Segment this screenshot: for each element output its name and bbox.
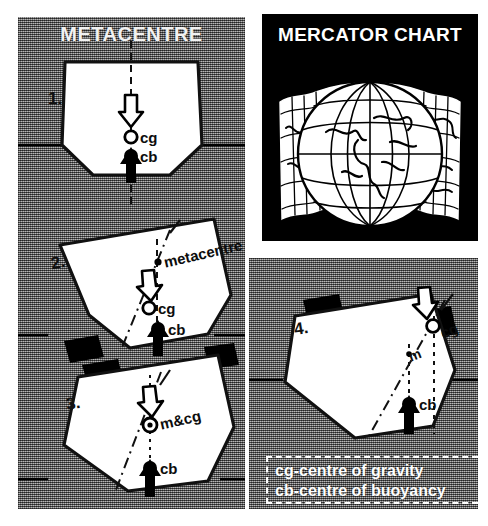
- label-cb-step1: cb: [140, 149, 158, 164]
- step-4-panel: 4. cg m cb cg-centre of gravity cb-centr…: [249, 258, 478, 509]
- step-3-group: [18, 343, 245, 497]
- label-cg-step2: cg: [158, 301, 176, 316]
- step-2-group: [18, 219, 245, 363]
- label-cb-step2: cb: [168, 322, 186, 337]
- step-number-1: 1.: [48, 90, 62, 107]
- step-number-4: 4.: [293, 319, 310, 338]
- step-1-group: [18, 41, 245, 205]
- step-number-2: 2.: [50, 253, 67, 272]
- label-cb-step4: cb: [419, 397, 437, 412]
- step-number-3: 3.: [65, 394, 82, 413]
- label-cb-step3: cb: [160, 461, 178, 476]
- metacentre-panel: METACENTRE: [18, 17, 245, 509]
- legend-line-cg: cg-centre of gravity: [275, 461, 478, 481]
- figure-root: METACENTRE: [0, 0, 488, 526]
- globe-icon: [262, 14, 478, 241]
- legend-line-cb: cb-centre of buoyancy: [275, 481, 478, 501]
- legend-box: cg-centre of gravity cb-centre of buoyan…: [266, 456, 478, 504]
- label-cg-step1: cg: [140, 130, 158, 145]
- mercator-chart-panel: MERCATOR CHART: [262, 14, 478, 241]
